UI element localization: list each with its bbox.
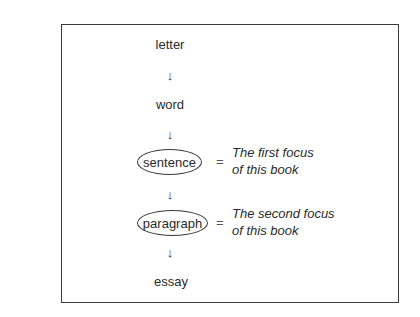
equals-sign: = bbox=[216, 215, 224, 231]
node-paragraph-ellipse: paragraph bbox=[137, 210, 208, 236]
down-arrow-icon: ↓ bbox=[167, 69, 174, 83]
node-sentence: sentence bbox=[143, 155, 196, 170]
annotation-paragraph-line2: of this book bbox=[232, 223, 299, 239]
down-arrow-icon: ↓ bbox=[167, 128, 174, 142]
down-arrow-icon: ↓ bbox=[167, 188, 174, 202]
diagram-frame bbox=[61, 24, 399, 303]
node-essay: essay bbox=[154, 274, 188, 290]
annotation-sentence-line1: The first focus bbox=[232, 145, 314, 161]
node-letter: letter bbox=[156, 37, 185, 53]
node-paragraph: paragraph bbox=[143, 216, 202, 231]
annotation-paragraph-line1: The second focus bbox=[232, 206, 335, 222]
equals-sign: = bbox=[216, 154, 224, 170]
node-sentence-ellipse: sentence bbox=[137, 149, 202, 175]
annotation-sentence-line2: of this book bbox=[232, 162, 299, 178]
down-arrow-icon: ↓ bbox=[167, 246, 174, 260]
node-word: word bbox=[156, 97, 184, 113]
